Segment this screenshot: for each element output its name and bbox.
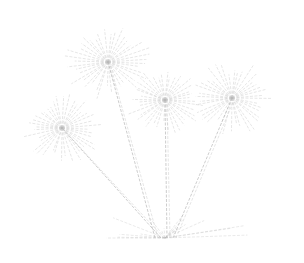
papyrus-illustration	[0, 0, 304, 263]
papyrus-drawing	[0, 0, 304, 263]
